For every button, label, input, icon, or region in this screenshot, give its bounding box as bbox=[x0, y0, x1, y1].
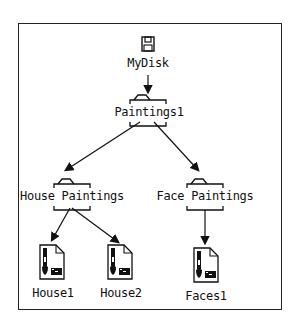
hierarchy-diagram bbox=[0, 0, 296, 328]
paint-document-icon[interactable] bbox=[40, 245, 64, 279]
paint-document-icon[interactable] bbox=[108, 245, 132, 279]
node-label-house2[interactable]: House2 bbox=[100, 286, 142, 300]
node-label-face-paintings[interactable]: Face Paintings bbox=[157, 189, 254, 203]
node-label-house1[interactable]: House1 bbox=[32, 286, 74, 300]
paint-document-icon[interactable] bbox=[194, 248, 218, 282]
floppy-disk-icon[interactable] bbox=[142, 37, 154, 51]
node-label-paintings1[interactable]: Paintings1 bbox=[114, 105, 183, 119]
node-label-house-paintings[interactable]: House Paintings bbox=[20, 189, 124, 203]
node-label-mydisk[interactable]: MyDisk bbox=[127, 56, 169, 70]
node-label-faces1[interactable]: Faces1 bbox=[185, 289, 227, 303]
